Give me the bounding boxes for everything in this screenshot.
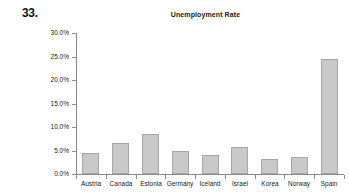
x-axis-label: Norway <box>284 181 314 188</box>
x-axis-label: Germany <box>165 181 195 188</box>
x-axis-tick <box>195 175 196 179</box>
y-axis-tick <box>72 80 76 81</box>
y-axis-tick <box>72 57 76 58</box>
x-axis-label: Korea <box>255 181 285 188</box>
x-axis-line <box>76 174 344 175</box>
y-axis-tick-label: 10.0% <box>29 124 69 131</box>
x-axis-tick <box>106 175 107 179</box>
y-axis-tick-label: 20.0% <box>29 77 69 84</box>
x-axis-tick <box>344 175 345 179</box>
y-axis-tick-label: 25.0% <box>29 54 69 61</box>
y-axis-tick-label: 30.0% <box>29 30 69 37</box>
y-axis-tick-label: 5.0% <box>29 148 69 155</box>
x-axis-tick <box>225 175 226 179</box>
bar <box>231 147 248 174</box>
x-axis-label: Estonia <box>136 181 166 188</box>
y-axis-tick-label: 0.0% <box>29 171 69 178</box>
y-axis-tick-label: 15.0% <box>29 101 69 108</box>
bar <box>202 155 219 174</box>
x-axis-label: Austria <box>76 181 106 188</box>
y-axis-tick <box>72 127 76 128</box>
y-axis-line <box>76 33 77 175</box>
x-axis-tick <box>165 175 166 179</box>
x-axis-tick <box>314 175 315 179</box>
bar <box>261 159 278 174</box>
y-axis-tick <box>72 104 76 105</box>
bar <box>112 143 129 174</box>
bar <box>172 151 189 174</box>
bar <box>291 157 308 174</box>
x-axis-tick <box>136 175 137 179</box>
plot-area: 0.0%5.0%10.0%15.0%20.0%25.0%30.0%Austria… <box>0 0 349 193</box>
bar <box>321 59 338 174</box>
x-axis-tick <box>76 175 77 179</box>
x-axis-tick <box>284 175 285 179</box>
bar <box>82 153 99 174</box>
figure: 33. Unemployment Rate 0.0%5.0%10.0%15.0%… <box>0 0 349 193</box>
x-axis-label: Iceland <box>195 181 225 188</box>
bar <box>142 134 159 174</box>
x-axis-label: Canada <box>106 181 136 188</box>
x-axis-label: Spain <box>314 181 344 188</box>
y-axis-tick <box>72 33 76 34</box>
y-axis-tick <box>72 151 76 152</box>
x-axis-tick <box>255 175 256 179</box>
x-axis-label: Israel <box>225 181 255 188</box>
